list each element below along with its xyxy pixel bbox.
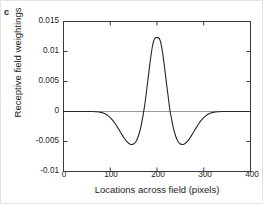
plot-frame [64, 22, 251, 172]
figure-panel-c: c Receptive field weightings Locations a… [0, 0, 263, 204]
plot-canvas [0, 0, 263, 204]
